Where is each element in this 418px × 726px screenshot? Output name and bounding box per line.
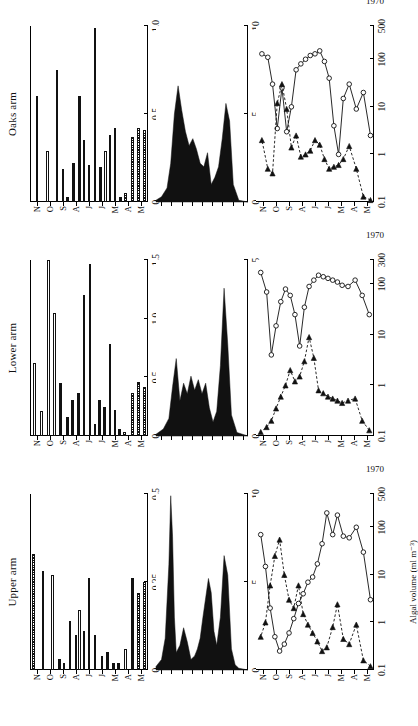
month-label: A bbox=[297, 440, 307, 446]
axis-tick bbox=[144, 376, 148, 377]
nitrogen-bar bbox=[56, 70, 59, 202]
month-tick bbox=[202, 436, 203, 440]
algal-volume-series bbox=[256, 494, 374, 670]
nitrogen-bar bbox=[124, 193, 127, 202]
nitrogen-bar bbox=[94, 635, 97, 670]
month-label: N bbox=[258, 206, 268, 212]
month-tick bbox=[192, 202, 193, 206]
plot-line-lower: 0.1110100300MAMJJASON1970 bbox=[256, 260, 374, 436]
month-tick bbox=[202, 202, 203, 206]
month-label: S bbox=[58, 674, 68, 679]
nitrogen-bar bbox=[114, 410, 117, 436]
month-label: A bbox=[71, 206, 81, 212]
nitrogen-fixation-area bbox=[156, 494, 248, 670]
axis-tick-label: 0.1 bbox=[377, 196, 387, 208]
axis-tick bbox=[144, 25, 148, 26]
month-tick bbox=[182, 436, 183, 440]
nitrogen-bar bbox=[114, 128, 117, 202]
nitrogen-bar bbox=[109, 135, 112, 202]
month-label: J bbox=[323, 440, 333, 443]
month-label: M bbox=[136, 674, 146, 682]
month-tick bbox=[243, 436, 244, 440]
nitrogen-bar bbox=[42, 571, 45, 670]
axis-tick bbox=[144, 259, 148, 260]
nitrogen-bar bbox=[83, 631, 86, 670]
axis-tick-label: 0.1 bbox=[377, 664, 387, 676]
plot-line-oaks: 0.1110100500MAMJJASON1970 bbox=[256, 26, 374, 202]
nitrogen-bar bbox=[137, 128, 140, 202]
nitrogen-bar bbox=[59, 383, 62, 436]
axis-tick bbox=[144, 113, 148, 114]
month-label: M bbox=[336, 440, 346, 448]
nitrogen-bar bbox=[51, 575, 54, 670]
nitrogen-bar bbox=[62, 169, 65, 202]
month-label: N bbox=[258, 674, 268, 680]
month-tick bbox=[171, 436, 172, 440]
axis-tick-label: 0.1 bbox=[377, 430, 387, 442]
month-label: O bbox=[45, 440, 55, 446]
nitrogen-bar bbox=[123, 432, 126, 436]
axis-tick-label: 100 bbox=[377, 520, 387, 534]
month-tick bbox=[243, 202, 244, 206]
month-tick bbox=[202, 670, 203, 674]
month-label: M bbox=[336, 206, 346, 214]
nitrogen-bar bbox=[94, 28, 97, 202]
month-tick bbox=[212, 670, 213, 674]
algal-volume-series bbox=[256, 26, 374, 202]
series-filled-triangle bbox=[258, 334, 372, 434]
month-tick bbox=[222, 670, 223, 674]
axis-tick-label: 300 bbox=[377, 253, 387, 267]
month-label: M bbox=[110, 206, 120, 214]
month-label: S bbox=[284, 440, 294, 445]
nitrogen-bar bbox=[131, 393, 134, 436]
nitrogen-fixation-area bbox=[156, 26, 248, 202]
month-label: O bbox=[271, 674, 281, 680]
month-label: M bbox=[136, 440, 146, 448]
nitrogen-bar bbox=[131, 137, 134, 202]
nitrogen-bar bbox=[117, 663, 120, 670]
month-tick bbox=[171, 202, 172, 206]
nitrogen-bar bbox=[33, 363, 36, 436]
month-tick bbox=[222, 436, 223, 440]
panel-title-upper: Upper arm bbox=[6, 494, 18, 670]
nitrogen-bar bbox=[119, 197, 122, 202]
axis-tick-label: 100 bbox=[377, 52, 387, 66]
month-label: M bbox=[110, 674, 120, 682]
plot-area-upper: 0510 bbox=[156, 494, 248, 670]
axis-tick-label: 500 bbox=[377, 487, 387, 501]
nitrogen-bar bbox=[88, 165, 91, 202]
nitrogen-bar bbox=[47, 260, 50, 436]
axis-tick-label: 1 bbox=[377, 152, 387, 157]
month-label: J bbox=[323, 674, 333, 677]
month-label: J bbox=[310, 440, 320, 443]
nitrogen-bar bbox=[58, 659, 61, 670]
nitrogen-bar bbox=[77, 393, 80, 436]
nitrogen-bar bbox=[40, 411, 43, 436]
month-label: A bbox=[297, 206, 307, 212]
nitrogen-bar bbox=[32, 554, 35, 670]
nitrogen-bar bbox=[53, 313, 56, 436]
axis-tick-label: 500 bbox=[377, 19, 387, 33]
plot-area-lower: 05 bbox=[156, 260, 248, 436]
month-tick bbox=[233, 436, 234, 440]
month-label: O bbox=[45, 206, 55, 212]
nitrogen-bar bbox=[72, 163, 75, 202]
month-label: S bbox=[58, 440, 68, 445]
nitrogen-bar bbox=[143, 582, 146, 670]
plot-bar-oaks: 00.51.0MAMJJASON bbox=[30, 26, 148, 202]
month-label: S bbox=[58, 206, 68, 211]
nitrogen-bar bbox=[99, 167, 102, 202]
nitrogen-bar bbox=[143, 130, 146, 202]
month-tick bbox=[233, 202, 234, 206]
nitrogen-bar bbox=[78, 96, 81, 202]
nitrogen-bar bbox=[124, 649, 127, 670]
nitrogen-bar bbox=[103, 407, 106, 436]
month-label: A bbox=[71, 674, 81, 680]
nitrogen-bar bbox=[66, 197, 69, 202]
month-label: A bbox=[123, 440, 133, 446]
nitrogen-bar bbox=[66, 417, 69, 436]
panel-lower: Lower arm00.51.01.5MAMJJASON050.11101003… bbox=[0, 250, 411, 484]
month-tick bbox=[161, 202, 162, 206]
month-tick bbox=[243, 670, 244, 674]
